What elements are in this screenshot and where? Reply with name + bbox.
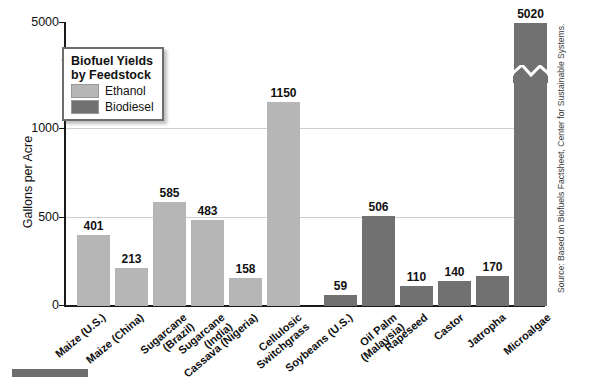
- bar-shadow: [365, 219, 398, 309]
- bar-value-label: 59: [334, 279, 347, 293]
- bar-maize-china[interactable]: 213: [115, 268, 148, 306]
- y-tick-mark-500: [59, 217, 64, 218]
- bar-rapeseed[interactable]: 110: [400, 286, 433, 306]
- y-tick-label-1000: 1000: [31, 121, 59, 135]
- bar-jatropha[interactable]: 170: [476, 276, 509, 306]
- bar-microalgae[interactable]: 5020: [514, 23, 547, 306]
- bar-shadow: [441, 284, 474, 309]
- bar-oil-palm-malaysia[interactable]: 506: [362, 216, 395, 306]
- bar-shadow: [232, 281, 265, 309]
- bar-break-icon: [513, 65, 548, 83]
- bar-value-label: 140: [444, 265, 464, 279]
- bar-sugarcane-india[interactable]: 483: [191, 220, 224, 306]
- y-tick-mark-5000: [59, 22, 64, 23]
- bar-value-label: 401: [83, 219, 103, 233]
- footer-rule: [12, 369, 88, 377]
- bar-shadow: [194, 223, 227, 309]
- bar-shadow: [327, 298, 360, 309]
- bar-shadow: [80, 238, 113, 309]
- bar-value-label: 158: [235, 262, 255, 276]
- y-axis-title: Gallons per Acre: [21, 92, 35, 272]
- bar-shadow: [270, 105, 303, 309]
- bar-shadow: [479, 279, 512, 309]
- bar-cellulosic-switchgrass[interactable]: 1150: [267, 102, 300, 306]
- gridline-1000: [64, 128, 544, 129]
- y-tick-label-500: 500: [38, 210, 59, 224]
- bar-value-label: 483: [197, 204, 217, 218]
- x-tick-microalgae: Microalgae: [501, 311, 553, 357]
- source-note: Source: Based on Biofuels Factsheet, Cen…: [556, 73, 566, 293]
- x-tick-jatropha: Jatropha: [464, 311, 507, 350]
- legend-label-ethanol: Ethanol: [105, 84, 146, 98]
- legend: Biofuel Yields by Feedstock Ethanol Biod…: [62, 47, 164, 121]
- bar-value-label: 110: [407, 270, 426, 284]
- bar-value-label: 1150: [270, 86, 296, 100]
- bar-value-label: 585: [159, 186, 179, 200]
- legend-item-ethanol[interactable]: Ethanol: [71, 84, 154, 98]
- bar-value-label: 213: [121, 252, 141, 266]
- bar-soybeans-us[interactable]: 59: [324, 295, 357, 306]
- y-tick-label-0: 0: [52, 298, 59, 312]
- bar-sugarcane-brazil[interactable]: 585: [153, 202, 186, 306]
- bar-castor[interactable]: 140: [438, 281, 471, 306]
- bar-maize-us[interactable]: 401: [77, 235, 110, 306]
- bar-shadow: [156, 205, 189, 309]
- y-tick-mark-0: [59, 305, 64, 306]
- legend-title: Biofuel Yields by Feedstock: [71, 54, 154, 82]
- chart-figure: Gallons per Acre 5000 1000 500 0 401: [0, 0, 595, 386]
- gridline-500: [64, 217, 544, 218]
- y-tick-mark-1000: [59, 128, 64, 129]
- bar-value-label: 170: [482, 260, 502, 274]
- y-tick-label-5000: 5000: [31, 15, 59, 29]
- legend-label-biodiesel: Biodiesel: [105, 100, 154, 114]
- legend-item-biodiesel[interactable]: Biodiesel: [71, 100, 154, 114]
- bar-value-label: 5020: [517, 7, 544, 21]
- legend-swatch-biodiesel: [71, 100, 99, 114]
- bar-cassava-nigeria[interactable]: 158: [229, 278, 262, 306]
- legend-swatch-ethanol: [71, 84, 99, 98]
- bar-value-label: 506: [368, 200, 388, 214]
- bar-shadow: [118, 271, 151, 309]
- x-tick-castor: Castor: [431, 311, 465, 343]
